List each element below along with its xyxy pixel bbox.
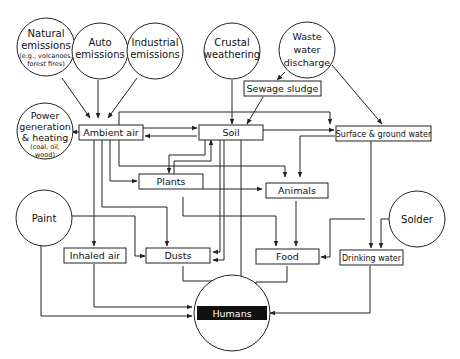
source-waste-water-discharge: Waste water discharge bbox=[279, 22, 335, 78]
svg-text:Natural: Natural bbox=[28, 28, 65, 39]
edge-inhaled-to-humans bbox=[94, 264, 192, 307]
edge-air-to-animals bbox=[119, 140, 285, 177]
node-humans: Humans bbox=[194, 275, 270, 351]
node-inhaled-air: Inhaled air bbox=[64, 248, 126, 263]
svg-text:wood): wood) bbox=[35, 151, 55, 159]
svg-text:weathering: weathering bbox=[204, 49, 260, 60]
node-surface-ground-water: Surface & ground water bbox=[336, 126, 432, 141]
node-soil: Soil bbox=[199, 125, 263, 140]
svg-text:Crustal: Crustal bbox=[214, 37, 249, 48]
node-plants: Plants bbox=[139, 174, 203, 189]
svg-text:Solder: Solder bbox=[401, 214, 434, 225]
svg-text:Paint: Paint bbox=[32, 213, 57, 224]
svg-text:Industrial: Industrial bbox=[132, 37, 179, 48]
svg-text:discharge: discharge bbox=[284, 57, 330, 68]
svg-text:Ambient air: Ambient air bbox=[83, 127, 138, 138]
source-paint: Paint bbox=[16, 190, 72, 246]
edge-plants-to-food bbox=[183, 197, 276, 246]
edge-solder-to-drinkingwater bbox=[381, 219, 390, 248]
source-natural-emissions: Natural emissions (e.g., volcanoes, fore… bbox=[17, 18, 75, 76]
svg-text:Soil: Soil bbox=[222, 127, 239, 138]
node-food: Food bbox=[256, 249, 319, 264]
svg-text:Food: Food bbox=[276, 251, 299, 262]
svg-text:& heating: & heating bbox=[22, 132, 69, 143]
svg-text:Inhaled air: Inhaled air bbox=[70, 250, 121, 261]
source-auto-emissions: Auto emissions bbox=[72, 23, 128, 79]
exposure-pathway-diagram: Natural emissions (e.g., volcanoes, fore… bbox=[0, 0, 460, 359]
svg-text:Drinking water: Drinking water bbox=[342, 254, 402, 263]
svg-text:(e.g., volcanoes,: (e.g., volcanoes, bbox=[19, 52, 73, 60]
svg-text:Animals: Animals bbox=[278, 185, 316, 196]
svg-text:Surface & ground water: Surface & ground water bbox=[336, 130, 432, 139]
svg-text:emissions: emissions bbox=[21, 40, 71, 51]
svg-text:emissions: emissions bbox=[130, 49, 180, 60]
svg-text:Sewage sludge: Sewage sludge bbox=[247, 83, 319, 94]
node-drinking-water: Drinking water bbox=[340, 250, 403, 265]
svg-text:Power: Power bbox=[31, 110, 60, 121]
edge-soil-to-dusts-b bbox=[213, 140, 224, 260]
edge-sewage-to-soil bbox=[247, 97, 263, 124]
svg-text:Waste: Waste bbox=[292, 31, 321, 42]
edge-surfacewater-to-animals bbox=[300, 136, 335, 177]
source-solder: Solder bbox=[389, 191, 445, 247]
node-ambient-air: Ambient air bbox=[79, 125, 143, 140]
node-animals: Animals bbox=[266, 183, 328, 198]
svg-text:Dusts: Dusts bbox=[165, 250, 192, 261]
edge-waste-to-sewage bbox=[277, 72, 285, 80]
svg-text:generation: generation bbox=[19, 121, 71, 132]
svg-text:Auto: Auto bbox=[88, 37, 111, 48]
svg-text:forest fires): forest fires) bbox=[27, 60, 64, 68]
svg-text:Plants: Plants bbox=[157, 176, 186, 187]
svg-text:water: water bbox=[293, 44, 320, 55]
svg-text:(coal, oil,: (coal, oil, bbox=[30, 143, 60, 151]
source-crustal-weathering: Crustal weathering bbox=[204, 23, 260, 79]
source-industrial-emissions: Industrial emissions bbox=[127, 23, 183, 79]
edge-soil-to-dusts-a bbox=[213, 140, 220, 252]
edge-air-to-plants bbox=[110, 140, 137, 181]
edge-waste-to-surfacewater bbox=[332, 65, 382, 124]
edge-drinkingwater-to-humans bbox=[270, 266, 370, 313]
svg-text:Humans: Humans bbox=[212, 308, 251, 319]
node-dusts: Dusts bbox=[146, 248, 210, 263]
source-power-generation: Power generation & heating (coal, oil, w… bbox=[17, 103, 73, 159]
svg-text:emissions: emissions bbox=[75, 49, 125, 60]
edge-air-to-surfacewater bbox=[119, 112, 330, 126]
node-sewage-sludge: Sewage sludge bbox=[244, 81, 321, 96]
